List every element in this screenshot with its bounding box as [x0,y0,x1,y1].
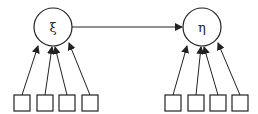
latent-node-eta: η [183,8,221,46]
loading-arrow [204,47,218,95]
loading-arrow [173,46,187,95]
latent-node-xi: ξ [34,8,72,46]
indicator-box [232,95,248,111]
latent-label-xi: ξ [49,20,56,35]
loading-arrow [55,47,67,95]
indicator-box [59,95,75,111]
latent-label-eta: η [198,20,206,35]
indicator-box [210,95,226,111]
indicator-box [165,95,181,111]
right-indicators [165,43,248,111]
left-indicators [14,43,98,111]
indicator-box [188,95,204,111]
loading-arrow [22,46,38,95]
loading-arrow [196,47,201,95]
loading-arrow [45,47,52,95]
loading-arrow [69,43,90,95]
indicator-box [14,95,30,111]
loading-arrow [218,43,240,95]
indicator-box [37,95,53,111]
indicator-box [82,95,98,111]
path-diagram: ξ η [0,0,258,114]
